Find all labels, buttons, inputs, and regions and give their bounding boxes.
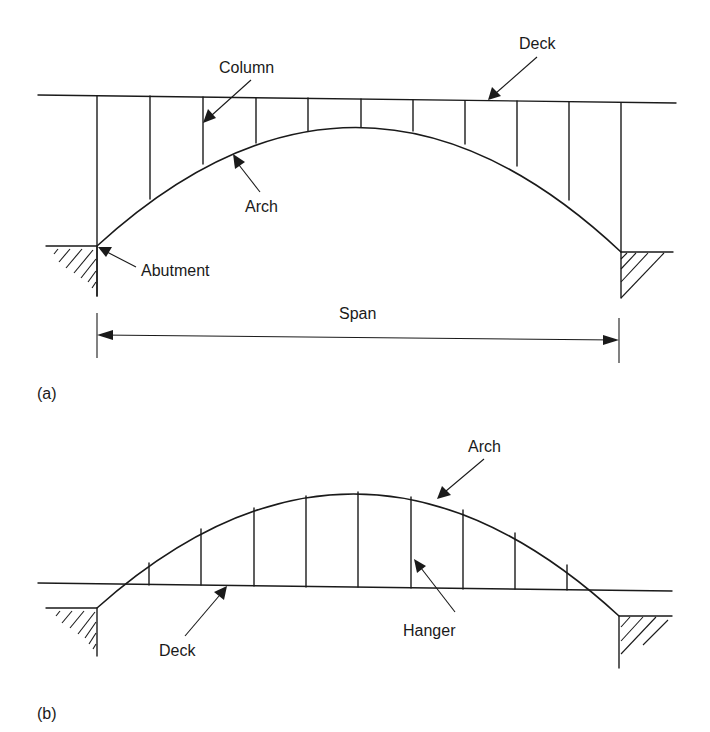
arrow-icon: [214, 586, 227, 600]
leaders-b: [185, 459, 484, 636]
label-span: Span: [339, 305, 376, 322]
arrow-icon: [414, 559, 426, 573]
abutment-left-b: [46, 608, 97, 656]
arch-bridge-diagram: Column Deck Arch Abutment Span (a): [0, 0, 710, 732]
label-arch-b: Arch: [468, 438, 501, 455]
abutment-right-a: [621, 252, 673, 298]
label-column: Column: [219, 59, 274, 76]
deck-a: [38, 95, 676, 103]
label-arch-a: Arch: [245, 198, 278, 215]
arrow-icon: [203, 109, 216, 123]
label-deck-a: Deck: [519, 35, 556, 52]
caption-a: (a): [37, 385, 57, 402]
caption-b: (b): [37, 705, 57, 722]
hangers-b: [149, 492, 567, 590]
arch-a: [97, 127, 621, 252]
label-deck-b: Deck: [159, 642, 196, 659]
arrow-icon: [233, 154, 245, 169]
panel-a-deck-arch: Column Deck Arch Abutment Span (a): [37, 35, 676, 402]
arrow-icon: [98, 247, 112, 257]
arrowhead-left-icon: [97, 330, 113, 340]
deck-b: [38, 583, 672, 591]
leaders-a: [98, 57, 537, 267]
label-abutment: Abutment: [141, 262, 210, 279]
label-hanger: Hanger: [403, 622, 456, 639]
abutment-right-b: [619, 616, 672, 668]
arrow-icon: [488, 87, 501, 100]
panel-b-through-arch: Arch Hanger Deck (b): [37, 438, 672, 722]
abutment-left-a: [46, 246, 97, 296]
arrowhead-right-icon: [603, 335, 619, 345]
